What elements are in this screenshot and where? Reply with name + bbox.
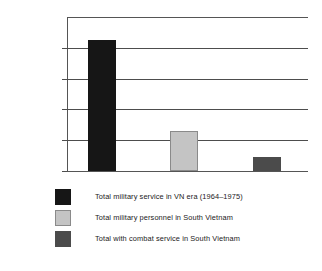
y-tick-mark-8000000 xyxy=(62,48,67,49)
y-axis-line xyxy=(67,17,68,172)
bar-chart-figure: 0 2,000,000 4,000,000 6,000,000 8,000,00… xyxy=(0,0,322,271)
plot-top-border xyxy=(67,17,308,18)
x-axis-line xyxy=(67,171,308,172)
legend-item-label: Total with combat service in South Vietn… xyxy=(95,234,240,243)
legend-item-label: Total military personnel in South Vietna… xyxy=(95,213,233,222)
bar-total-combat-service-south-vietnam xyxy=(253,157,281,171)
chart-legend: Total military service in VN era (1964–1… xyxy=(55,186,305,249)
y-tick-mark-2000000 xyxy=(62,140,67,141)
legend-item: Total military personnel in South Vietna… xyxy=(55,207,305,228)
bar-total-military-service-vn-era xyxy=(88,40,116,171)
legend-swatch-icon xyxy=(55,189,71,205)
legend-swatch-icon xyxy=(55,210,71,226)
y-tick-mark-0 xyxy=(62,171,67,172)
legend-item: Total with combat service in South Vietn… xyxy=(55,228,305,249)
y-tick-mark-4000000 xyxy=(62,109,67,110)
bar-total-military-personnel-south-vietnam xyxy=(170,131,198,171)
legend-item: Total military service in VN era (1964–1… xyxy=(55,186,305,207)
legend-swatch-icon xyxy=(55,231,71,247)
plot-area: 0 2,000,000 4,000,000 6,000,000 8,000,00… xyxy=(67,17,308,172)
legend-item-label: Total military service in VN era (1964–1… xyxy=(95,192,243,201)
y-tick-mark-6000000 xyxy=(62,79,67,80)
